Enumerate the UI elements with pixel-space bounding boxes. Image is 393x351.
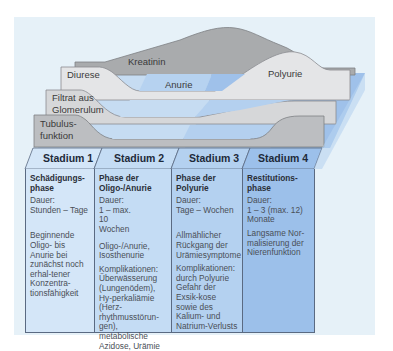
tubulus-plane-mid — [112, 125, 190, 139]
diurese-label: Diurese — [67, 69, 100, 80]
stage1-title: Schädigungs- phase — [30, 174, 90, 193]
stage4-column: Restitutions- phase Dauer: 1 – 3 (max. 1… — [243, 169, 315, 332]
stages-table: Schädigungs- phase Dauer: Stunden – Tage… — [25, 169, 315, 333]
stage1-title-line2: phase — [30, 184, 90, 194]
stage3-complications: Komplikationen: durch Polyurie Gefahr de… — [176, 264, 238, 331]
stage4-description: Langsame Nor-malisierung der Nierenfunkt… — [247, 229, 310, 258]
stage3-title: Phase der Polyurie — [176, 174, 238, 193]
tubulus-label-line2: funktion — [40, 130, 73, 141]
stage4-title: Restitutions- phase — [247, 174, 310, 193]
stage2-title: Phase der Oligo-/Anurie — [99, 174, 167, 193]
stage3-description: Allmählicher Rückgang der Urämiesymptome — [176, 231, 238, 260]
stage2-description: Oligo-/Anurie, Isosthenurie — [99, 242, 167, 261]
stage2-header: Stadium 2 — [114, 152, 164, 164]
filtrat-label-line2: Glomerulum — [52, 104, 104, 115]
anurie-label: Anurie — [165, 79, 192, 90]
tubulus-plane-right — [183, 125, 262, 139]
polyurie-label: Polyurie — [268, 68, 302, 79]
stage1-header: Stadium 1 — [43, 152, 93, 164]
tubulus-label-line1: Tubulus- — [40, 118, 77, 129]
stage3-column: Phase der Polyurie Dauer: Tage – Wochen … — [172, 169, 243, 332]
stage2-column: Phase der Oligo-/Anurie Dauer: 1 – max. … — [95, 169, 172, 332]
stage1-description: Beginnende Oligo- bis Anurie bei zunächs… — [30, 231, 90, 298]
stage3-title-line2: Polyurie — [176, 184, 238, 194]
filtrat-plane-mid — [120, 100, 210, 117]
stage3-header: Stadium 3 — [189, 152, 239, 164]
stage2-duration: 1 – max. 10 Wochen — [99, 206, 139, 235]
stage2-title-line2: Oligo-/Anurie — [99, 184, 167, 194]
filtrat-label-line1: Filtrat aus — [52, 92, 94, 103]
stage3-duration: Tage – Wochen — [176, 206, 238, 216]
stage4-title-line2: phase — [247, 184, 310, 194]
stage1-duration: Stunden – Tage — [30, 206, 90, 216]
stage4-duration: 1 – 3 (max. 12) Monate — [247, 206, 310, 225]
stage4-header: Stadium 4 — [258, 152, 308, 164]
kreatinin-label: Kreatinin — [128, 56, 166, 67]
stage1-column: Schädigungs- phase Dauer: Stunden – Tage… — [26, 169, 95, 332]
stage2-complications: Komplikationen: Überwässerung (Lungenöde… — [99, 265, 167, 351]
